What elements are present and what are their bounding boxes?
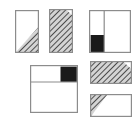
figure-2-hatch-region bbox=[50, 10, 73, 53]
figure-4[interactable] bbox=[30, 65, 78, 113]
figure-6[interactable] bbox=[90, 94, 132, 117]
figure-1[interactable] bbox=[15, 10, 39, 53]
figure-4-black-block bbox=[61, 67, 77, 82]
figure-2[interactable] bbox=[49, 9, 73, 53]
figure-5-graphic bbox=[90, 61, 132, 84]
figure-5-hatch-region bbox=[91, 62, 132, 84]
figure-5[interactable] bbox=[90, 61, 132, 84]
diagram-canvas bbox=[0, 0, 137, 127]
figure-1-graphic bbox=[15, 10, 39, 53]
figure-3-graphic bbox=[89, 10, 131, 53]
figure-2-graphic bbox=[49, 9, 73, 53]
figure-6-graphic bbox=[90, 94, 132, 117]
figure-4-graphic bbox=[30, 65, 78, 113]
figure-3-black-block bbox=[91, 35, 105, 52]
figure-3[interactable] bbox=[89, 10, 131, 53]
